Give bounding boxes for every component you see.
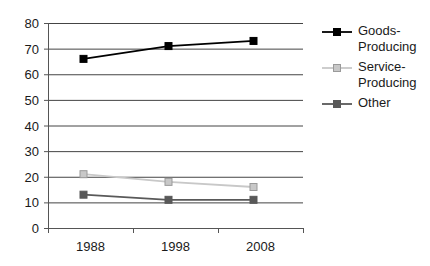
y-tick-labels: 01020304050607080 — [25, 16, 39, 236]
y-tick-label: 10 — [25, 195, 39, 210]
legend-item-service-producing[interactable]: Service-Producing — [322, 59, 417, 90]
x-tick-label: 2008 — [246, 239, 275, 254]
data-point-marker — [80, 171, 87, 178]
y-tick-label: 20 — [25, 170, 39, 185]
data-point-marker — [80, 55, 87, 62]
y-tick-label: 50 — [25, 93, 39, 108]
x-axis — [48, 228, 304, 233]
data-point-marker — [80, 191, 87, 198]
legend-item-other[interactable]: Other — [322, 95, 391, 110]
y-tick-label: 70 — [25, 42, 39, 57]
data-point-marker — [250, 37, 257, 44]
series-other — [80, 191, 257, 203]
series-goods-producing — [80, 37, 257, 62]
y-tick-label: 30 — [25, 144, 39, 159]
legend-label: Producing — [358, 75, 417, 90]
y-tick-label: 0 — [32, 221, 39, 236]
legend-item-goods-producing[interactable]: Goods-Producing — [322, 23, 417, 54]
data-point-marker — [250, 184, 257, 191]
legend-label: Service- — [358, 59, 406, 74]
chart-legend: Goods-ProducingService-ProducingOther — [322, 23, 417, 110]
y-tick-label: 40 — [25, 119, 39, 134]
chart-canvas: 01020304050607080 198819982008 Goods-Pro… — [0, 0, 430, 266]
legend-label: Producing — [358, 39, 417, 54]
y-tick-label: 80 — [25, 16, 39, 31]
legend-sample-marker — [334, 101, 341, 108]
y-axis — [44, 23, 49, 229]
legend-label: Goods- — [358, 23, 401, 38]
legend-label: Other — [358, 95, 391, 110]
data-point-marker — [165, 196, 172, 203]
x-tick-label: 1998 — [161, 239, 190, 254]
data-point-marker — [250, 196, 257, 203]
data-point-marker — [165, 43, 172, 50]
line-chart-figure: 01020304050607080 198819982008 Goods-Pro… — [0, 0, 430, 266]
data-series-layer — [80, 37, 257, 203]
y-tick-label: 60 — [25, 67, 39, 82]
legend-sample-marker — [334, 65, 341, 72]
series-service-producing — [80, 171, 257, 191]
x-tick-label: 1988 — [76, 239, 105, 254]
data-point-marker — [165, 178, 172, 185]
x-tick-labels: 198819982008 — [76, 239, 275, 254]
legend-sample-marker — [334, 29, 341, 36]
